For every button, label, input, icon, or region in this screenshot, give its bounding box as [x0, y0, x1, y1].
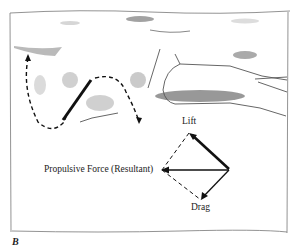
figure-panel: Lift Propulsive Force (Resultant) Drag B — [0, 0, 301, 250]
lift-vector — [192, 135, 229, 169]
sketch-border — [10, 11, 290, 233]
panel-letter: B — [12, 236, 19, 247]
water-shading — [14, 16, 259, 111]
lift-label: Lift — [182, 116, 196, 126]
vector-diagram — [161, 133, 229, 200]
arrowhead-down-icon — [136, 117, 142, 124]
sketch-illustration — [0, 0, 301, 250]
arm-outline — [80, 49, 287, 122]
drag-vector — [203, 170, 229, 197]
arrowhead-up-icon — [25, 54, 31, 61]
drag-label: Drag — [191, 202, 210, 212]
resultant-label: Propulsive Force (Resultant) — [44, 164, 153, 174]
